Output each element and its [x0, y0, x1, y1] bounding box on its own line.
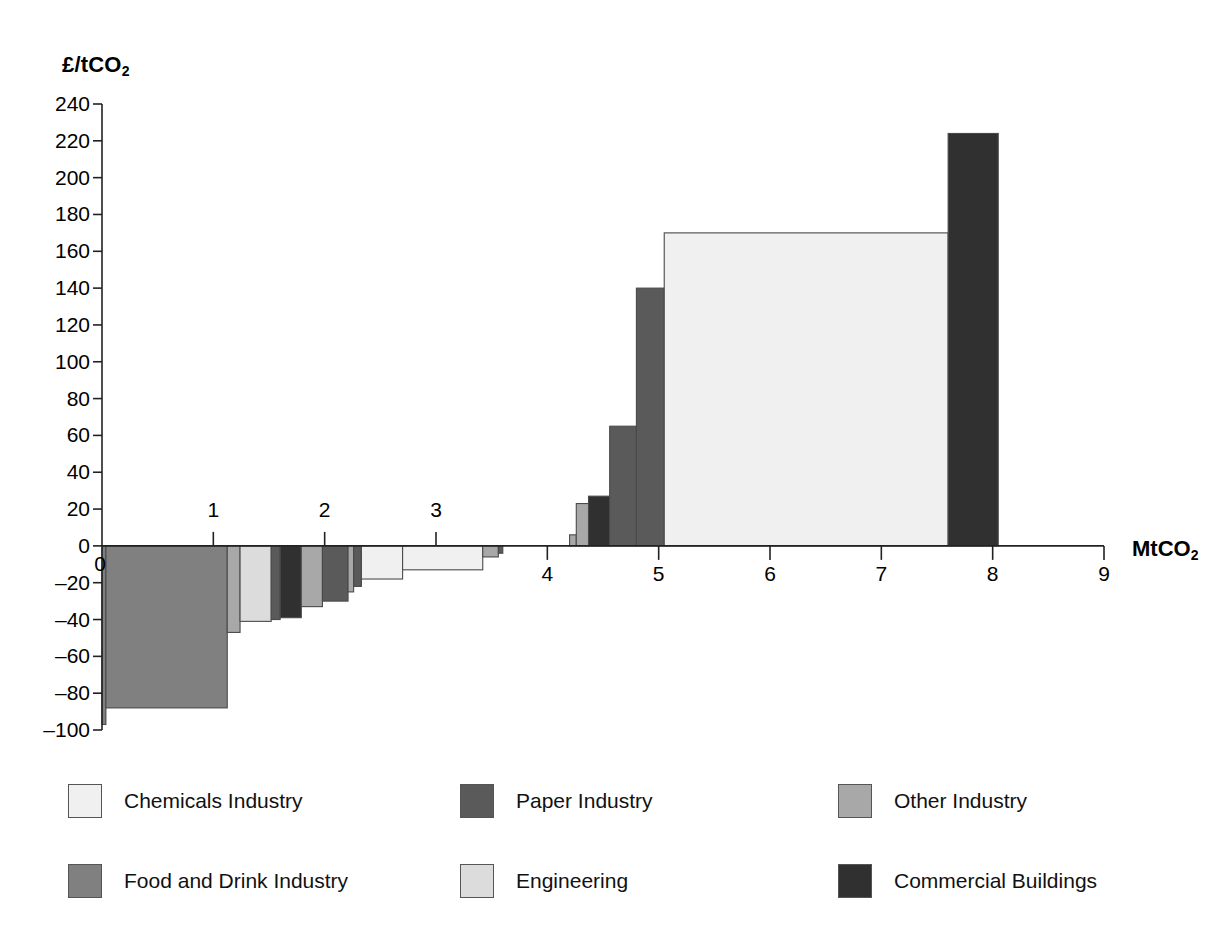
x-axis-tick-label: 1 — [207, 498, 219, 522]
bar-commercial-buildings — [589, 496, 610, 546]
bar-paper-industry — [636, 288, 664, 546]
legend-label: Commercial Buildings — [894, 869, 1097, 893]
y-axis-tick-label: 0 — [20, 534, 90, 558]
bar-paper-industry — [322, 546, 348, 601]
x-axis-tick-label: 0 — [94, 552, 106, 576]
plot-area: 240220200180160140120100806040200–20–40–… — [0, 0, 1208, 760]
bar-other-industry — [348, 546, 354, 592]
bar-chemicals-industry — [664, 233, 948, 546]
bar-paper-industry — [354, 546, 362, 587]
y-axis-tick-label: 120 — [20, 313, 90, 337]
x-axis-tick-label: 2 — [319, 498, 331, 522]
bar-chemicals-industry — [361, 546, 402, 579]
bar-paper-industry — [271, 546, 280, 620]
x-axis-tick-label: 7 — [875, 562, 887, 586]
bar-paper-industry — [610, 426, 637, 546]
bar-other-industry — [301, 546, 322, 607]
y-axis-tick-label: –100 — [20, 718, 90, 742]
bar-paper-industry — [498, 546, 502, 553]
x-axis-tick-label: 8 — [987, 562, 999, 586]
y-axis-tick-label: –40 — [20, 608, 90, 632]
y-axis-tick-label: 240 — [20, 92, 90, 116]
y-axis-tick-label: –20 — [20, 571, 90, 595]
y-axis-tick-label: –80 — [20, 681, 90, 705]
y-axis-tick-label: 220 — [20, 129, 90, 153]
y-axis-tick-label: 160 — [20, 239, 90, 263]
y-axis-tick-label: 140 — [20, 276, 90, 300]
legend-label: Engineering — [516, 869, 628, 893]
chart-svg — [0, 0, 1208, 760]
bar-other-industry — [227, 546, 240, 633]
y-axis-tick-label: 40 — [20, 460, 90, 484]
y-axis-tick-label: 100 — [20, 350, 90, 374]
legend-swatch — [460, 864, 494, 898]
y-axis-tick-label: 180 — [20, 202, 90, 226]
y-axis-tick-label: 60 — [20, 423, 90, 447]
legend-item: Engineering — [460, 864, 628, 898]
bar-other-industry — [576, 504, 588, 546]
chart-page: £/tCO2 MtCO2 240220200180160140120100806… — [0, 0, 1208, 934]
legend-item: Chemicals Industry — [68, 784, 303, 818]
y-axis-tick-label: –60 — [20, 644, 90, 668]
legend-label: Chemicals Industry — [124, 789, 303, 813]
x-axis-tick-label: 3 — [430, 498, 442, 522]
y-axis-tick-label: 200 — [20, 166, 90, 190]
y-axis-tick-label: 20 — [20, 497, 90, 521]
legend-swatch — [68, 864, 102, 898]
legend-item: Commercial Buildings — [838, 864, 1097, 898]
y-axis-tick-label: 80 — [20, 387, 90, 411]
legend-swatch — [838, 864, 872, 898]
bar-engineering — [240, 546, 271, 621]
legend-swatch — [838, 784, 872, 818]
bar-other-industry — [483, 546, 499, 557]
bar-other-industry — [570, 535, 577, 546]
bar-chemicals-industry — [403, 546, 483, 570]
x-axis-tick-label: 9 — [1098, 562, 1110, 586]
x-axis-tick-label: 5 — [653, 562, 665, 586]
legend-item: Paper Industry — [460, 784, 653, 818]
legend-swatch — [68, 784, 102, 818]
legend-label: Other Industry — [894, 789, 1027, 813]
bar-commercial-buildings — [280, 546, 301, 618]
bar-commercial-buildings — [948, 133, 998, 545]
legend-label: Food and Drink Industry — [124, 869, 348, 893]
bar-food-and-drink-industry — [106, 546, 227, 708]
x-axis-tick-label: 4 — [541, 562, 553, 586]
legend-item: Food and Drink Industry — [68, 864, 348, 898]
chart-legend: Chemicals IndustryPaper IndustryOther In… — [0, 770, 1208, 934]
x-axis-tick-label: 6 — [764, 562, 776, 586]
legend-swatch — [460, 784, 494, 818]
legend-label: Paper Industry — [516, 789, 653, 813]
legend-item: Other Industry — [838, 784, 1027, 818]
